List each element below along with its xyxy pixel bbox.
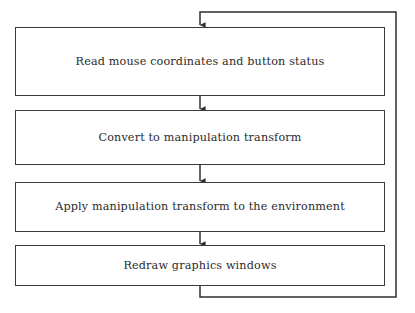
process-node-convert-transform[interactable]: Convert to manipulation transform (15, 110, 385, 165)
flowchart-diagram: Read mouse coordinates and button status… (0, 0, 415, 313)
process-node-read-input[interactable]: Read mouse coordinates and button status (15, 27, 385, 96)
process-node-label: Redraw graphics windows (117, 259, 282, 273)
process-node-label: Apply manipulation transform to the envi… (49, 200, 351, 214)
process-node-label: Convert to manipulation transform (92, 131, 307, 145)
process-node-apply-transform[interactable]: Apply manipulation transform to the envi… (15, 182, 385, 232)
process-node-label: Read mouse coordinates and button status (70, 55, 331, 69)
process-node-redraw-windows[interactable]: Redraw graphics windows (15, 245, 385, 286)
